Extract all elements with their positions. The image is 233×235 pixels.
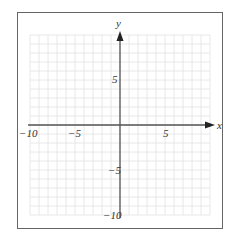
x-tick-label-5: 5 <box>163 127 169 139</box>
y-tick-label-neg5: −5 <box>108 164 121 176</box>
y-tick-label-neg10: −10 <box>103 209 122 221</box>
x-tick-label-neg5: −5 <box>68 127 81 139</box>
y-tick-label-5: 5 <box>112 73 118 85</box>
x-axis-label: x <box>216 119 222 131</box>
coordinate-plane: x y −10 −5 5 5 −5 −10 <box>0 0 233 235</box>
x-tick-label-neg10: −10 <box>19 127 38 139</box>
y-axis-label: y <box>115 17 121 29</box>
